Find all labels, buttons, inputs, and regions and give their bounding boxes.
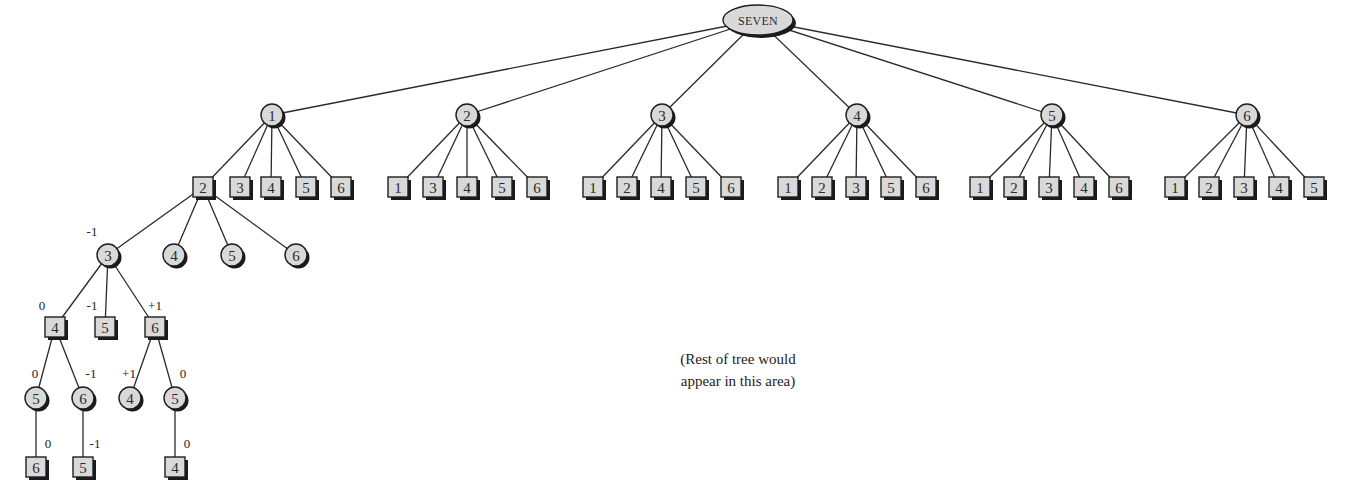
tree-edge [822, 115, 857, 187]
level2-node: 3 [846, 177, 869, 200]
node-label: 4 [657, 180, 665, 196]
tree-edge [467, 20, 758, 115]
tree-edge [433, 115, 467, 187]
level6-node: 4 [165, 457, 188, 480]
node-label: 4 [171, 460, 179, 476]
level2-node: 3 [423, 177, 446, 200]
node-label: 6 [1243, 108, 1251, 124]
minimax-score: +1 [122, 366, 136, 381]
node-label: 5 [79, 460, 87, 476]
level1-node: 1 [261, 104, 286, 129]
minimax-score: 0 [184, 436, 191, 451]
level1-node: 2 [456, 104, 481, 129]
level2-node: 5 [881, 177, 904, 200]
node-label: 6 [533, 180, 541, 196]
level3-node: 4 [163, 244, 188, 269]
node-label: 5 [101, 320, 109, 336]
tree-edges [36, 20, 1314, 467]
node-label: 4 [126, 391, 134, 407]
level2-node: 1 [778, 177, 801, 200]
node-label: 5 [32, 391, 40, 407]
level2-node: 1 [970, 177, 993, 200]
tree-edge [272, 20, 758, 115]
level2-node: 2 [1199, 177, 1222, 200]
node-label: 4 [267, 180, 275, 196]
node-label: 5 [171, 391, 179, 407]
level5-node: 5 [25, 387, 50, 412]
minimax-score: 0 [32, 366, 39, 381]
node-label: 5 [887, 180, 895, 196]
node-label: 5 [692, 180, 700, 196]
minimax-score: -1 [86, 366, 97, 381]
node-label: 5 [498, 180, 506, 196]
level2-node: 4 [457, 177, 480, 200]
minimax-score: -1 [90, 436, 101, 451]
tree-edge [55, 255, 108, 327]
node-label: 3 [104, 248, 112, 264]
tree-edge [627, 115, 662, 187]
node-label: 6 [1115, 180, 1123, 196]
tree-edge [398, 115, 467, 187]
level4-node: 5 [95, 317, 118, 340]
level2-node: 6 [721, 177, 744, 200]
tree-edge [758, 20, 1052, 115]
level2-node: 4 [651, 177, 674, 200]
level2-node: 2 [193, 177, 216, 200]
level3-node: 5 [221, 244, 246, 269]
level1-node: 3 [651, 104, 676, 129]
node-label: 4 [51, 320, 59, 336]
minimax-score: -1 [87, 224, 98, 239]
note-line-2: appear in this area) [638, 370, 838, 392]
node-label: 2 [818, 180, 826, 196]
tree-edge [1014, 115, 1052, 187]
tree-nodes: SEVEN12345621345631245641235651234661234… [25, 5, 1327, 480]
node-label: 6 [79, 391, 87, 407]
tree-edge [980, 115, 1052, 187]
node-label: 1 [268, 108, 276, 124]
level2-node: 5 [492, 177, 515, 200]
level2-node: 2 [812, 177, 835, 200]
node-label: 6 [922, 180, 930, 196]
level2-node: 4 [1269, 177, 1292, 200]
node-label: 1 [394, 180, 402, 196]
tree-edge [1209, 115, 1247, 187]
tree-edge [272, 115, 341, 187]
level2-node: 2 [1004, 177, 1027, 200]
level2-node: 6 [331, 177, 354, 200]
game-tree-diagram: SEVEN12345621345631245641235651234661234… [0, 0, 1346, 483]
rest-of-tree-note: (Rest of tree would appear in this area) [638, 348, 838, 392]
tree-edge [857, 115, 926, 187]
node-label: 5 [1048, 108, 1056, 124]
node-label: 6 [32, 460, 40, 476]
node-label: 3 [1045, 180, 1053, 196]
node-label: 1 [784, 180, 792, 196]
tree-edge [1247, 115, 1314, 187]
node-label: 6 [151, 320, 159, 336]
tree-edge [788, 115, 857, 187]
node-label: 3 [1240, 180, 1248, 196]
level5-node: 5 [164, 387, 189, 412]
level1-node: 5 [1041, 104, 1066, 129]
tree-edge [662, 115, 731, 187]
minimax-score: 0 [39, 298, 46, 313]
node-label: 2 [623, 180, 631, 196]
level5-node: 6 [72, 387, 97, 412]
minimax-score: +1 [148, 298, 162, 313]
tree-edge [593, 115, 662, 187]
level6-node: 6 [26, 457, 49, 480]
node-label: 3 [429, 180, 437, 196]
level3-node: 6 [285, 244, 310, 269]
tree-edge [203, 115, 272, 187]
node-label: 6 [292, 248, 300, 264]
root-node: SEVEN [723, 5, 796, 38]
node-label: 3 [658, 108, 666, 124]
level5-node: 4 [119, 387, 144, 412]
level2-node: 3 [1234, 177, 1257, 200]
level1-node: 4 [846, 104, 871, 129]
node-label: 5 [228, 248, 236, 264]
tree-edge [1175, 115, 1247, 187]
level2-node: 3 [230, 177, 253, 200]
tree-edge [467, 115, 537, 187]
level2-node: 6 [916, 177, 939, 200]
node-label: 1 [1171, 180, 1179, 196]
